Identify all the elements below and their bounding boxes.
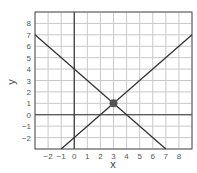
- y-tick-label: −1: [22, 122, 32, 131]
- coordinate-plane-chart: −2−1012345678 −2−1012345678 x y: [0, 0, 197, 173]
- x-tick-label: −1: [57, 152, 67, 161]
- y-tick-label: 7: [27, 31, 32, 40]
- y-tick-label: 5: [27, 54, 32, 63]
- x-tick-label: 6: [151, 152, 156, 161]
- x-tick-label: 7: [164, 152, 169, 161]
- y-tick-label: 2: [27, 88, 32, 97]
- y-tick-label: 6: [27, 42, 32, 51]
- y-axis-label: y: [5, 79, 17, 85]
- x-tick-label: 0: [72, 152, 77, 161]
- y-tick-label: 1: [27, 99, 32, 108]
- y-tick-label: 0: [27, 111, 32, 120]
- y-tick-label: 4: [27, 65, 32, 74]
- x-axis-label: x: [110, 158, 116, 170]
- x-tick-label: −2: [44, 152, 54, 161]
- x-tick-label: 2: [98, 152, 103, 161]
- y-tick-label: 3: [27, 77, 32, 86]
- grid-lines: [35, 12, 192, 149]
- y-tick-label: 8: [27, 19, 32, 28]
- x-tick-label: 8: [177, 152, 182, 161]
- intersection-point: [110, 99, 118, 107]
- x-tick-label: 4: [124, 152, 129, 161]
- x-tick-label: 1: [85, 152, 90, 161]
- intersection-point-marker: [110, 99, 118, 107]
- x-tick-label: 5: [137, 152, 142, 161]
- y-tick-labels: −2−1012345678: [22, 19, 32, 142]
- y-tick-label: −2: [22, 134, 32, 143]
